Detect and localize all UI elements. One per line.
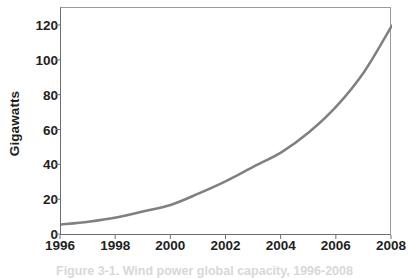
x-axis-tick-label: 1996 (45, 238, 75, 253)
figure-caption: Figure 3-1. Wind power global capacity, … (0, 264, 409, 278)
y-axis-tick-label: 60 (24, 122, 58, 137)
x-axis-tick-label: 2006 (321, 238, 351, 253)
y-axis-title-label: Gigawatts (8, 90, 23, 155)
y-axis-tick-label: 100 (24, 52, 58, 67)
x-axis-tick-label: 1998 (100, 238, 130, 253)
x-axis-tick-label: 2000 (155, 238, 185, 253)
y-axis-tick-labels: 020406080100120 (24, 0, 58, 273)
y-axis-tick-label: 120 (24, 18, 58, 33)
y-axis-tick-label: 80 (24, 87, 58, 102)
x-axis-tick-label: 2002 (210, 238, 240, 253)
y-axis-tick-label: 20 (24, 192, 58, 207)
x-axis-tick-label: 2008 (376, 238, 406, 253)
line-series-svg (61, 8, 392, 236)
series-line-global-wind-capacity (61, 25, 392, 224)
y-axis-tick-label: 40 (24, 157, 58, 172)
plot-area (60, 7, 391, 235)
x-axis-tick-label: 2004 (266, 238, 296, 253)
x-axis-tick-labels: 1996199820002002200420062008 (0, 238, 409, 258)
